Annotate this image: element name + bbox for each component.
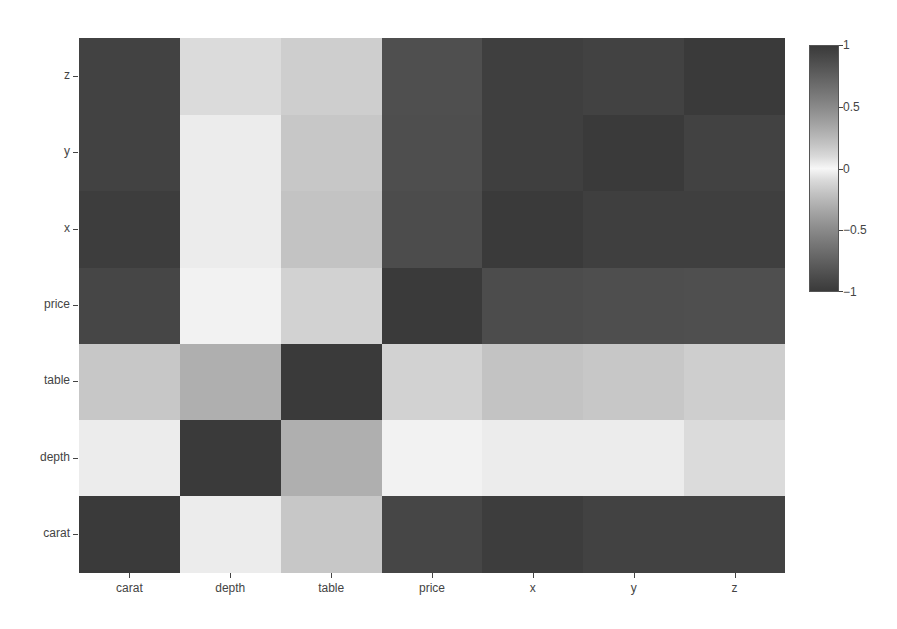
heatmap-cell [684, 38, 785, 115]
y-tick-mark [73, 229, 78, 230]
heatmap-cell [382, 343, 483, 420]
y-tick-mark [73, 152, 78, 153]
heatmap-cell [180, 343, 281, 420]
heatmap-cell [382, 38, 483, 115]
heatmap-cell [79, 191, 180, 268]
heatmap-cell [281, 267, 382, 344]
x-tick-mark [634, 573, 635, 578]
colorbar-tick-label: 0.5 [843, 100, 860, 114]
heatmap-cell [79, 419, 180, 496]
heatmap-cell [180, 419, 281, 496]
y-tick-mark [73, 381, 78, 382]
heatmap-cell [180, 114, 281, 191]
y-tick-label: x [0, 221, 70, 235]
heatmap-cell [482, 343, 583, 420]
heatmap-cell [482, 38, 583, 115]
heatmap-cell [180, 496, 281, 573]
heatmap-cell [684, 343, 785, 420]
heatmap-cell [382, 419, 483, 496]
heatmap-cell [684, 191, 785, 268]
x-tick-label: depth [180, 581, 280, 595]
y-tick-label: y [0, 144, 70, 158]
y-tick-mark [73, 458, 78, 459]
y-tick-label: z [0, 68, 70, 82]
heatmap-cell [79, 38, 180, 115]
heatmap-cell [281, 343, 382, 420]
x-tick-mark [432, 573, 433, 578]
heatmap-cell [583, 191, 684, 268]
y-tick-mark [73, 534, 78, 535]
heatmap-cell [684, 419, 785, 496]
heatmap-cell [180, 38, 281, 115]
x-tick-label: price [382, 581, 482, 595]
y-tick-mark [73, 76, 78, 77]
x-tick-mark [533, 573, 534, 578]
heatmap-cell [583, 114, 684, 191]
colorbar-tick-label: −1 [843, 285, 857, 299]
heatmap-cell [583, 267, 684, 344]
heatmap-cell [79, 114, 180, 191]
heatmap-cell [180, 191, 281, 268]
heatmap-cell [583, 38, 684, 115]
heatmap-cell [180, 267, 281, 344]
colorbar-tick-label: 0 [843, 162, 850, 176]
x-tick-mark [331, 573, 332, 578]
heatmap-cell [79, 267, 180, 344]
heatmap-cell [281, 419, 382, 496]
x-tick-mark [129, 573, 130, 578]
heatmap-cell [382, 191, 483, 268]
heatmap-cell [482, 267, 583, 344]
heatmap-cell [482, 114, 583, 191]
x-tick-label: table [281, 581, 381, 595]
x-tick-mark [230, 573, 231, 578]
heatmap-cell [684, 114, 785, 191]
x-tick-mark [735, 573, 736, 578]
x-tick-label: y [584, 581, 684, 595]
heatmap-cell [583, 496, 684, 573]
colorbar-tick-label: −0.5 [843, 223, 867, 237]
heatmap-cell [583, 419, 684, 496]
heatmap-cell [382, 114, 483, 191]
heatmap-cell [281, 496, 382, 573]
heatmap-cell [382, 267, 483, 344]
heatmap-cell [684, 496, 785, 573]
heatmap-cell [79, 496, 180, 573]
heatmap-cell [382, 496, 483, 573]
heatmap-cell [482, 419, 583, 496]
y-tick-label: carat [0, 526, 70, 540]
y-tick-mark [73, 305, 78, 306]
colorbar-tick-label: 1 [843, 38, 850, 52]
x-tick-label: carat [79, 581, 179, 595]
heatmap-cell [583, 343, 684, 420]
heatmap-cell [281, 114, 382, 191]
x-tick-label: x [483, 581, 583, 595]
heatmap-cell [281, 191, 382, 268]
heatmap-plot-area [79, 38, 785, 572]
heatmap-cell [482, 191, 583, 268]
heatmap-cell [684, 267, 785, 344]
heatmap-cell [281, 38, 382, 115]
y-tick-label: price [0, 297, 70, 311]
x-tick-label: z [685, 581, 785, 595]
y-tick-label: depth [0, 450, 70, 464]
heatmap-cell [482, 496, 583, 573]
heatmap-cell [79, 343, 180, 420]
colorbar [809, 45, 839, 292]
y-tick-label: table [0, 373, 70, 387]
